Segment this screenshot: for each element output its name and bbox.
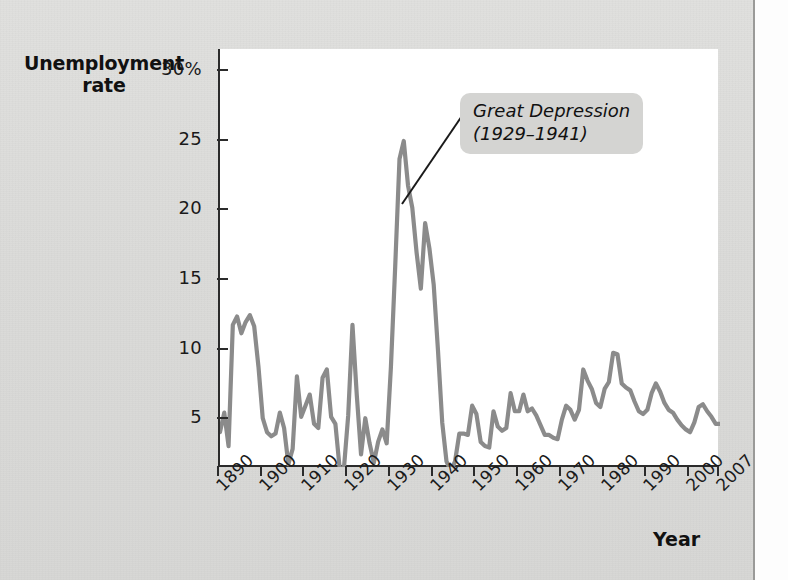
y-tick-mark <box>217 139 228 141</box>
y-tick-mark <box>217 278 228 280</box>
annotation-line-2: (1929–1941) <box>473 123 630 146</box>
y-tick-mark <box>217 69 228 71</box>
annotation-line-1: Great Depression <box>473 100 630 123</box>
y-tick-mark <box>217 348 228 350</box>
x-axis-title: Year <box>653 528 700 550</box>
unemployment-line <box>220 141 720 467</box>
y-tick-label: 30% <box>112 58 202 79</box>
y-tick-mark <box>217 417 228 419</box>
y-tick-label: 20 <box>112 197 202 218</box>
y-tick-mark <box>217 208 228 210</box>
y-tick-label: 10 <box>112 337 202 358</box>
y-tick-label: 15 <box>112 267 202 288</box>
page-edge <box>753 0 788 580</box>
great-depression-annotation: Great Depression (1929–1941) <box>460 93 643 154</box>
y-tick-label: 25 <box>112 128 202 149</box>
y-tick-label: 5 <box>112 406 202 427</box>
